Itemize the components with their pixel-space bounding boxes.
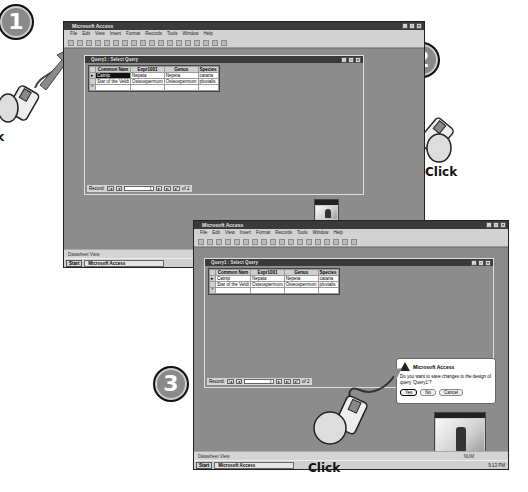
cell[interactable]: Osteospermum [251, 282, 285, 288]
help-icon[interactable] [351, 239, 357, 245]
new-object-icon[interactable] [342, 239, 348, 245]
delete-record-icon[interactable] [324, 239, 330, 245]
paste-icon[interactable] [131, 40, 137, 46]
query-close-button[interactable]: × [485, 260, 491, 266]
new-object-icon[interactable] [212, 40, 218, 46]
filter-icon[interactable] [297, 239, 303, 245]
query-restore-button[interactable]: ▫ [478, 260, 484, 266]
menu-format[interactable]: Format [256, 229, 270, 237]
restore-button[interactable]: ▫ [493, 222, 499, 228]
menu-window[interactable]: Window [313, 229, 329, 237]
cell[interactable] [198, 85, 218, 91]
cell[interactable]: pluvialis [318, 282, 338, 288]
menu-help[interactable]: Help [334, 229, 343, 237]
menu-file[interactable]: File [200, 229, 207, 237]
view-button[interactable] [198, 239, 204, 245]
copy-icon[interactable] [252, 239, 258, 245]
cell[interactable]: Star of the Veldt [96, 79, 131, 85]
undo-icon[interactable] [140, 40, 146, 46]
menu-records[interactable]: Records [275, 229, 292, 237]
menu-edit[interactable]: Edit [82, 30, 90, 38]
cell[interactable]: Osteospermum [284, 282, 318, 288]
database-window-icon[interactable] [333, 239, 339, 245]
cell[interactable] [284, 288, 318, 294]
cut-icon[interactable] [243, 239, 249, 245]
prev-record-button[interactable]: ◂ [116, 186, 122, 191]
cut-icon[interactable] [113, 40, 119, 46]
menu-insert[interactable]: Insert [110, 30, 121, 38]
column-header[interactable]: Species [318, 270, 338, 276]
sort-descending-icon[interactable] [158, 40, 164, 46]
column-header[interactable]: Common Nam [216, 270, 251, 276]
view-button[interactable] [68, 40, 74, 46]
record-number-input[interactable]: 1 [124, 186, 154, 191]
start-button[interactable]: Start [66, 260, 82, 267]
menu-edit[interactable]: Edit [212, 229, 220, 237]
taskbar-access-button[interactable]: Microsoft Access [214, 462, 294, 469]
new-record-button[interactable]: ▸* [293, 379, 300, 384]
new-record-icon[interactable] [185, 40, 191, 46]
copy-icon[interactable] [122, 40, 128, 46]
new-record-icon[interactable] [315, 239, 321, 245]
undo-icon[interactable] [270, 239, 276, 245]
menu-window[interactable]: Window [183, 30, 199, 38]
start-button[interactable]: Start [196, 462, 212, 469]
menu-help[interactable]: Help [204, 30, 213, 38]
minimize-button[interactable]: _ [402, 23, 408, 29]
sort-ascending-icon[interactable] [149, 40, 155, 46]
new-record-button[interactable]: ▸* [173, 186, 180, 191]
no-button[interactable]: No [420, 389, 436, 396]
find-icon[interactable] [306, 239, 312, 245]
database-window-icon[interactable] [203, 40, 209, 46]
column-header[interactable]: Common Nam [96, 67, 131, 73]
print-icon[interactable] [86, 40, 92, 46]
menu-format[interactable]: Format [126, 30, 140, 38]
cell[interactable] [216, 288, 251, 294]
save-icon[interactable] [77, 40, 83, 46]
menu-tools[interactable]: Tools [297, 229, 308, 237]
spelling-icon[interactable] [234, 239, 240, 245]
query-close-button[interactable]: × [355, 57, 361, 63]
first-record-button[interactable]: |◂ [107, 186, 114, 191]
print-preview-icon[interactable] [95, 40, 101, 46]
print-preview-icon[interactable] [225, 239, 231, 245]
column-header[interactable]: Species [198, 67, 218, 73]
save-icon[interactable] [207, 239, 213, 245]
delete-record-icon[interactable] [194, 40, 200, 46]
next-record-button[interactable]: ▸ [156, 186, 162, 191]
taskbar-access-button[interactable]: Microsoft Access [84, 260, 164, 267]
menu-insert[interactable]: Insert [240, 229, 251, 237]
menu-view[interactable]: View [225, 229, 235, 237]
cancel-button[interactable]: Cancel [439, 389, 463, 396]
next-record-button[interactable]: ▸ [276, 379, 282, 384]
cell[interactable]: Star of the Veldt [216, 282, 251, 288]
cell[interactable] [131, 85, 165, 91]
sort-ascending-icon[interactable] [279, 239, 285, 245]
filter-icon[interactable] [167, 40, 173, 46]
spelling-icon[interactable] [104, 40, 110, 46]
close-button[interactable]: × [500, 222, 506, 228]
cell[interactable] [96, 85, 131, 91]
paste-icon[interactable] [261, 239, 267, 245]
cell[interactable] [164, 85, 198, 91]
restore-button[interactable]: ▫ [409, 23, 415, 29]
query-minimize-button[interactable]: _ [471, 260, 477, 266]
menu-file[interactable]: File [70, 30, 77, 38]
last-record-button[interactable]: ▸| [284, 379, 291, 384]
first-record-button[interactable]: |◂ [227, 379, 234, 384]
query-minimize-button[interactable]: _ [341, 57, 347, 63]
prev-record-button[interactable]: ◂ [236, 379, 242, 384]
help-icon[interactable] [221, 40, 227, 46]
cell[interactable]: pluvialis [198, 79, 218, 85]
cell[interactable]: Osteospermum [131, 79, 165, 85]
record-number-input[interactable]: 1 [244, 379, 274, 384]
last-record-button[interactable]: ▸| [164, 186, 171, 191]
cell[interactable] [318, 288, 338, 294]
print-icon[interactable] [216, 239, 222, 245]
office-assistant[interactable] [314, 199, 339, 221]
cell[interactable]: Osteospermum [164, 79, 198, 85]
menu-records[interactable]: Records [145, 30, 162, 38]
minimize-button[interactable]: _ [486, 222, 492, 228]
close-button[interactable]: × [416, 23, 422, 29]
menu-view[interactable]: View [95, 30, 105, 38]
